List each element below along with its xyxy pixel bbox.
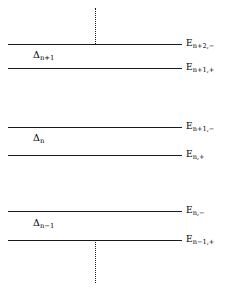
energy-label-symbol: E bbox=[186, 121, 193, 131]
gap-label-3: Δn−1 bbox=[33, 218, 54, 228]
gap-label-subscript: n−1 bbox=[40, 222, 54, 230]
energy-label-subscript: n+1,− bbox=[193, 125, 215, 133]
energy-level-label-2: En+1,+ bbox=[186, 63, 214, 72]
energy-label-subscript: n,− bbox=[193, 209, 205, 217]
energy-label-subscript: n,+ bbox=[193, 153, 205, 161]
energy-level-label-1: En+2,− bbox=[186, 39, 214, 48]
energy-level-line-1 bbox=[8, 44, 182, 45]
energy-label-subscript: n+1,+ bbox=[193, 66, 215, 74]
energy-level-label-6: En−1,+ bbox=[186, 235, 214, 244]
energy-label-symbol: E bbox=[186, 205, 193, 215]
energy-level-line-2 bbox=[8, 68, 182, 69]
energy-level-diagram: En+2,− En+1,+ En+1,− En,+ En,− En−1,+ Δn… bbox=[0, 0, 240, 288]
energy-level-label-3: En+1,− bbox=[186, 122, 214, 131]
gap-label-subscript: n+1 bbox=[40, 54, 54, 62]
gap-label-1: Δn+1 bbox=[33, 50, 54, 60]
energy-level-label-5: En,− bbox=[186, 206, 205, 215]
energy-level-line-4 bbox=[8, 155, 182, 156]
energy-label-symbol: E bbox=[186, 62, 193, 72]
energy-level-line-3 bbox=[8, 127, 182, 128]
gap-label-subscript: n bbox=[40, 137, 44, 145]
energy-label-subscript: n−1,+ bbox=[193, 238, 215, 246]
dotted-continuation-line-bottom bbox=[95, 240, 96, 283]
gap-label-symbol: Δ bbox=[33, 49, 40, 60]
gap-label-2: Δn bbox=[33, 133, 44, 143]
energy-label-symbol: E bbox=[186, 38, 193, 48]
gap-label-symbol: Δ bbox=[33, 217, 40, 228]
energy-label-symbol: E bbox=[186, 234, 193, 244]
gap-label-symbol: Δ bbox=[33, 132, 40, 143]
dotted-continuation-line-top bbox=[95, 8, 96, 44]
energy-level-label-4: En,+ bbox=[186, 150, 205, 159]
energy-level-line-5 bbox=[8, 211, 182, 212]
energy-label-subscript: n+2,− bbox=[193, 42, 215, 50]
energy-label-symbol: E bbox=[186, 149, 193, 159]
